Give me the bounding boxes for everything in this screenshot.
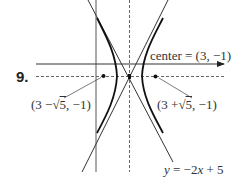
- right-focus-label: (3 +√5, −1): [157, 98, 217, 111]
- right-focus-leader: [159, 78, 192, 98]
- asymptote-label: y = −2x + 5: [164, 163, 224, 176]
- center-point: [128, 74, 131, 79]
- problem-number: 9.: [16, 69, 29, 84]
- left-focus-label: (3 −√5, −1): [31, 98, 91, 111]
- asymptote-rest: + 5: [203, 162, 223, 177]
- right-focus-point: [154, 75, 158, 79]
- left-focus-suffix: , −1): [66, 97, 91, 112]
- left-focus-prefix: (3 −: [31, 97, 52, 112]
- left-focus-point: [102, 74, 106, 78]
- asymptote-positive-slope: [82, 0, 168, 172]
- hyperbola-right-branch: [142, 18, 163, 133]
- radical-icon: √: [52, 97, 59, 112]
- left-focus-leader: [64, 78, 101, 99]
- radical-icon: √: [178, 97, 185, 112]
- center-label: center = (3, −1): [150, 49, 231, 62]
- hyperbola-diagram: [0, 0, 235, 184]
- asymptote-eq: = −2: [170, 162, 198, 177]
- right-focus-suffix: , −1): [192, 97, 217, 112]
- right-focus-prefix: (3 +: [157, 97, 178, 112]
